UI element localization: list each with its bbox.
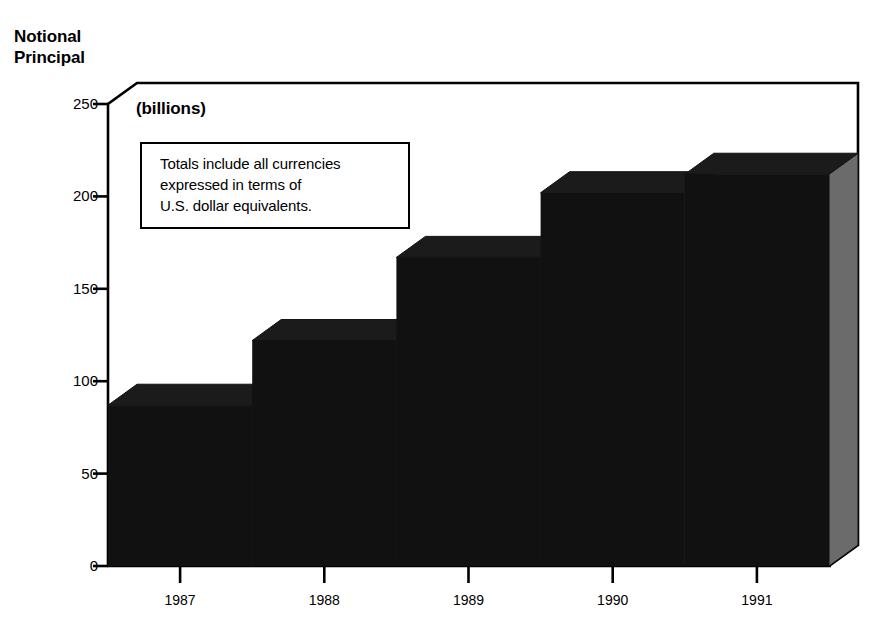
plot-area	[0, 0, 895, 643]
y-tick-label: 250	[38, 96, 98, 111]
annotation-line: U.S. dollar equivalents.	[160, 195, 394, 216]
y-tick-label: 0	[38, 558, 98, 573]
y-tick-label: 100	[38, 373, 98, 388]
x-tick-label: 1987	[140, 593, 220, 608]
x-tick-label: 1989	[429, 593, 509, 608]
units-caption: (billions)	[136, 99, 206, 119]
chart-container: Notional Principal 050100150200250 19871…	[0, 0, 895, 643]
bar-1991	[685, 153, 858, 566]
y-tick-label: 200	[38, 188, 98, 203]
y-tick-label: 50	[38, 466, 98, 481]
x-tick-label: 1990	[573, 593, 653, 608]
annotation-line: Totals include all currencies	[160, 153, 394, 174]
annotation-line: expressed in terms of	[160, 174, 394, 195]
annotation-note: Totals include all currencies expressed …	[140, 142, 410, 229]
x-tick-label: 1991	[717, 593, 797, 608]
x-tick-label: 1988	[284, 593, 364, 608]
y-tick-label: 150	[38, 281, 98, 296]
